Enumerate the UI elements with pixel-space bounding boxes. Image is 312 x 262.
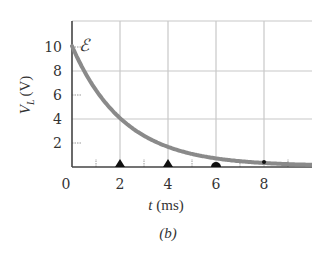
axes (72, 21, 312, 167)
dot-marker-icon (262, 160, 266, 164)
x-tick-label: 6 (212, 176, 221, 192)
triangle-marker-icon (115, 159, 125, 167)
x-axis-label: t(ms) (148, 197, 184, 214)
y-tick-label: 4 (53, 111, 62, 127)
y-axis-unit: (V) (17, 76, 34, 97)
x-axis-var: t (148, 197, 153, 213)
emf-annotation: ℰ (79, 35, 91, 55)
x-tick-label: 8 (260, 176, 269, 192)
y-tick-label: 2 (53, 135, 62, 151)
y-axis-label: VL(V) (17, 76, 36, 115)
x-axis-unit: (ms) (156, 197, 184, 214)
triangle-marker-icon (163, 159, 173, 167)
y-tick-label: 8 (53, 63, 62, 79)
y-axis-sub: L (25, 99, 36, 106)
semicircle-marker-icon (211, 162, 221, 167)
grid (72, 21, 312, 167)
x-tick-label: 4 (164, 176, 173, 192)
y-tick-label: 6 (53, 87, 62, 103)
panel-label: (b) (159, 225, 177, 242)
vl-decay-chart: 02468246810 ℰ VL(V) t(ms) (b) (0, 0, 312, 262)
x-tick-label: 0 (62, 176, 71, 192)
vl-curve (72, 46, 312, 165)
x-tick-label: 2 (116, 176, 125, 192)
svg-text:VL(V): VL(V) (17, 76, 36, 115)
y-tick-label: 10 (44, 39, 62, 55)
